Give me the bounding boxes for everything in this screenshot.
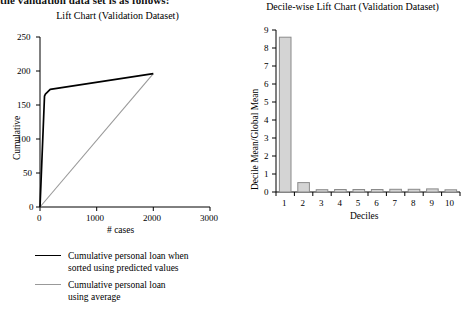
bar-decile-2 <box>298 183 310 192</box>
legend-swatch-average-icon <box>35 284 61 285</box>
legend-label-average-line2: using average <box>35 291 235 303</box>
lift-chart-xlabel: # cases <box>107 225 134 235</box>
decile-xtick-2: 2 <box>301 198 306 208</box>
decile-xtick-3: 3 <box>319 198 324 208</box>
lift-xtick-2000: 2000 <box>143 213 161 223</box>
decile-chart-plot <box>235 0 470 215</box>
legend-item-predicted: Cumulative personal loan when sorted usi… <box>35 250 235 274</box>
decile-xtick-7: 7 <box>393 198 398 208</box>
decile-xtick-8: 8 <box>411 198 416 208</box>
decile-lift-chart-panel: Decile-wise Lift Chart (Validation Datas… <box>235 0 470 240</box>
bar-decile-7 <box>390 189 402 192</box>
lift-xtick-3000: 3000 <box>200 213 218 223</box>
average-line <box>40 74 153 207</box>
lift-xtick-1000: 1000 <box>86 213 104 223</box>
legend-label-predicted-line2: sorted using predicted values <box>35 262 235 274</box>
bar-decile-6 <box>371 190 383 193</box>
bar-decile-1 <box>279 37 291 192</box>
bar-decile-5 <box>353 190 365 193</box>
decile-xtick-9: 9 <box>429 198 434 208</box>
bar-decile-10 <box>445 190 457 192</box>
decile-xtick-10: 10 <box>445 198 454 208</box>
legend-swatch-predicted-icon <box>35 255 61 256</box>
decile-xtick-6: 6 <box>374 198 379 208</box>
decile-xtick-5: 5 <box>356 198 361 208</box>
decile-xtick-1: 1 <box>282 198 287 208</box>
legend-item-average: Cumulative personal loan using average <box>35 279 235 303</box>
lift-chart-plot <box>0 10 235 225</box>
decile-chart-xlabel: Deciles <box>350 211 379 221</box>
bar-decile-8 <box>408 189 420 192</box>
bar-decile-9 <box>427 189 439 192</box>
lift-xtick-0: 0 <box>37 213 42 223</box>
legend-label-predicted-line1: Cumulative personal loan when <box>35 250 235 262</box>
legend-label-average-line1: Cumulative personal loan <box>35 279 235 291</box>
decile-xtick-4: 4 <box>337 198 342 208</box>
clipped-heading: the validation data set is as follows: <box>0 0 169 6</box>
lift-chart-legend: Cumulative personal loan when sorted usi… <box>35 250 235 308</box>
bar-decile-4 <box>335 190 347 193</box>
lift-chart-panel: Lift Chart (Validation Dataset) Cumulati… <box>0 10 235 313</box>
bar-decile-3 <box>316 190 328 192</box>
